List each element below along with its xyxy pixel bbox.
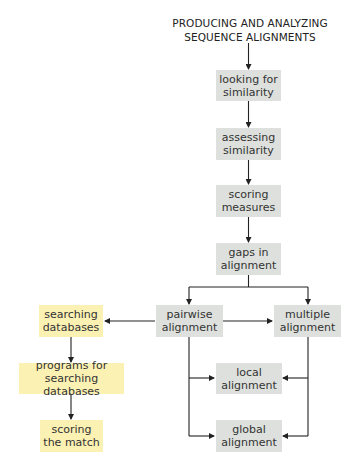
node-label: measures [222, 201, 276, 214]
node-local-alignment: localalignment [216, 363, 282, 394]
node-label: alignment [162, 321, 218, 334]
node-assessing-similarity: assessingsimilarity [216, 128, 281, 160]
node-label: pairwise [162, 308, 218, 321]
node-scoring-measures: scoringmeasures [216, 185, 281, 217]
node-gaps-in-alignment: gaps inalignment [216, 243, 281, 275]
node-label: gaps in [221, 246, 277, 259]
node-label: programs for [19, 359, 124, 372]
node-label: the match [43, 436, 99, 449]
node-global-alignment: globalalignment [216, 420, 282, 452]
node-label: alignment [280, 321, 336, 334]
node-looking-for-similarity: looking forsimilarity [216, 70, 281, 101]
connector-arrows [0, 0, 354, 470]
node-multiple-alignment: multiplealignment [274, 305, 341, 337]
node-label: local [221, 366, 277, 379]
node-label: assessing [222, 131, 275, 144]
node-scoring-the-match: scoringthe match [40, 420, 103, 452]
node-pairwise-alignment: pairwisealignment [156, 305, 223, 337]
node-label: looking for [219, 73, 278, 86]
node-label: databases [43, 321, 100, 334]
node-label: multiple [280, 308, 336, 321]
node-label: scoring [43, 423, 99, 436]
node-label: scoring [222, 188, 276, 201]
node-searching-databases: searchingdatabases [39, 305, 103, 337]
node-label: searching databases [19, 372, 124, 398]
node-label: similarity [222, 144, 275, 157]
node-label: global [221, 423, 277, 436]
node-label: similarity [219, 86, 278, 99]
node-label: alignment [221, 436, 277, 449]
node-label: alignment [221, 259, 277, 272]
node-label: alignment [221, 379, 277, 392]
node-label: searching [43, 308, 100, 321]
node-programs-for-searching-databases: programs forsearching databases [19, 363, 124, 394]
